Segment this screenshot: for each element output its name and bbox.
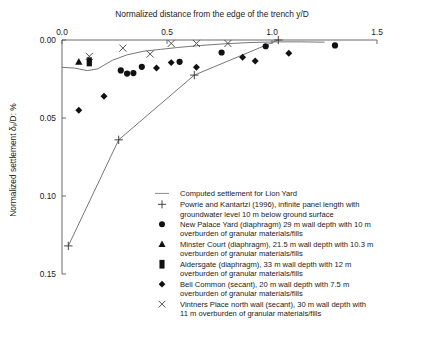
x-tick-label: 1.0 xyxy=(266,27,278,37)
legend-label: Minster Court (diaphragm), 21.5 m wall d… xyxy=(180,240,373,249)
data-point-triangle xyxy=(75,58,82,65)
y-tick-label: 0.05 xyxy=(40,113,57,123)
data-point-circle xyxy=(332,42,338,48)
x-tick-label: 0.0 xyxy=(56,27,68,37)
data-point-diamond xyxy=(252,58,259,65)
x-tick-label: 1.5 xyxy=(371,27,383,37)
data-point-circle xyxy=(118,67,124,73)
data-point-diamond xyxy=(168,59,175,66)
data-point-square xyxy=(159,260,164,269)
legend-label-cont: overburden of granular materials/fills xyxy=(180,229,303,238)
data-point-diamond xyxy=(285,50,292,57)
data-point-circle xyxy=(124,70,130,76)
settlement-scatter-chart: Normalized distance from the edge of the… xyxy=(0,0,425,341)
legend-label: Computed settlement for Lion Yard xyxy=(180,189,297,198)
legend-label: New Palace Yard (diaphragm) 29 m wall de… xyxy=(180,220,371,229)
data-point-diamond xyxy=(193,64,200,71)
x-axis-title: Normalized distance from the edge of the… xyxy=(115,9,309,19)
y-tick-label: 0.10 xyxy=(40,191,57,201)
data-point-circle xyxy=(177,59,183,65)
data-point-diamond xyxy=(153,65,160,72)
data-point-circle xyxy=(263,43,269,49)
x-tick-labels: 0.00.51.01.5 xyxy=(56,27,383,37)
legend-label-cont: overburden of granular materials/fills xyxy=(180,249,303,258)
data-point-diamond xyxy=(239,54,246,61)
data-point-circle xyxy=(139,64,145,70)
legend-label-cont: overburden of granular materials/fills xyxy=(180,269,303,278)
y-tick-label: 0.15 xyxy=(40,269,57,279)
legend-label-cont: 11 m overburden of granular materials/fi… xyxy=(180,309,321,318)
data-point-circle xyxy=(219,49,225,55)
legend-label: Aldersgate (diaphragm), 33 m wall depth … xyxy=(180,260,351,269)
legend-label-cont: groundwater level 10 m below ground surf… xyxy=(180,210,334,219)
y-tick-label: 0.00 xyxy=(40,35,57,45)
x-tick-label: 0.5 xyxy=(161,27,173,37)
data-point-diamond xyxy=(101,93,108,100)
legend-label: Powrie and Kantartzi (1996), infinite pa… xyxy=(180,200,359,209)
y-axis-title: Normalized settlement δᵥ/D: % xyxy=(8,103,18,217)
data-point-circle xyxy=(130,70,136,76)
chart-legend: Computed settlement for Lion YardPowrie … xyxy=(155,189,373,318)
data-point-circle xyxy=(159,221,165,227)
legend-label-cont: overburden of granular materials/fills xyxy=(180,289,303,298)
y-tick-labels: 0.000.050.100.15 xyxy=(40,35,57,279)
data-point-triangle xyxy=(158,241,165,247)
chart-figure: Normalized distance from the edge of the… xyxy=(0,0,425,341)
data-point-diamond xyxy=(75,107,82,114)
data-point-diamond xyxy=(159,281,166,288)
legend-label: Bell Common (secant), 20 m wall depth wi… xyxy=(180,280,349,289)
legend-label: Vintners Place north wall (secant), 30 m… xyxy=(180,300,366,309)
